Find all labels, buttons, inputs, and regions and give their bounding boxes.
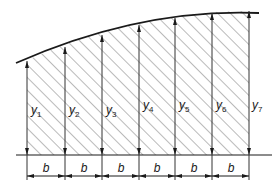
svg-text:b: b xyxy=(81,161,88,175)
area-diagram: y1 y2 y3 y4 y5 y6 y7 b b b b b b xyxy=(0,0,273,190)
svg-text:y7: y7 xyxy=(251,98,263,114)
svg-text:b: b xyxy=(43,161,50,175)
svg-text:b: b xyxy=(191,161,198,175)
hatched-area xyxy=(20,0,260,160)
svg-text:b: b xyxy=(228,161,235,175)
dimension-arrows xyxy=(27,174,249,178)
svg-text:b: b xyxy=(154,161,161,175)
svg-text:b: b xyxy=(118,161,125,175)
